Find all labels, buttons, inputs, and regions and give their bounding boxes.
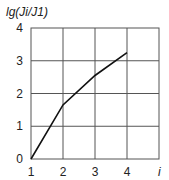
series-line	[31, 53, 127, 159]
y-tick-labels: 01234	[16, 21, 23, 166]
y-tick-label: 3	[16, 54, 23, 68]
x-tick-label: 2	[60, 165, 67, 179]
x-tick-label: 1	[28, 165, 35, 179]
y-tick-label: 2	[16, 87, 23, 101]
grid	[31, 28, 159, 159]
y-tick-label: 1	[16, 119, 23, 133]
chart: lg(Ji/J1) 01234 1234 i	[0, 0, 169, 180]
series-group	[31, 53, 127, 159]
x-tick-label: 4	[124, 165, 131, 179]
x-tick-label: 3	[92, 165, 99, 179]
y-tick-label: 4	[16, 21, 23, 35]
x-tick-labels: 1234	[28, 165, 131, 179]
x-axis-label: i	[158, 165, 161, 179]
y-tick-label: 0	[16, 152, 23, 166]
y-axis-label: lg(Ji/J1)	[6, 5, 48, 19]
